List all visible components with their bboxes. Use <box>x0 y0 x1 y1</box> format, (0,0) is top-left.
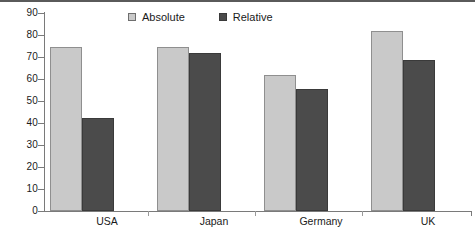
legend-swatch-absolute-icon <box>128 13 136 21</box>
x-axis-line <box>44 211 472 212</box>
x-axis-label-uk: UK <box>365 215 475 227</box>
y-axis-label-0: 0 <box>4 206 38 216</box>
y-axis-label-50: 50 <box>4 96 38 106</box>
bar-chart: Absolute Relative 90 80 70 60 50 40 30 2… <box>0 0 475 230</box>
y-axis-label-10: 10 <box>4 184 38 194</box>
y-axis-label-30: 30 <box>4 140 38 150</box>
bar-germany-relative <box>296 89 328 211</box>
plot-area: Absolute Relative 90 80 70 60 50 40 30 2… <box>0 0 475 230</box>
y-tick-70 <box>38 57 44 58</box>
y-tick-10 <box>38 189 44 190</box>
y-tick-40 <box>38 123 44 124</box>
y-tick-90 <box>38 13 44 14</box>
y-axis-label-60: 60 <box>4 74 38 84</box>
bar-japan-relative <box>189 53 221 211</box>
y-tick-0 <box>38 211 44 212</box>
bar-usa-relative <box>82 118 114 211</box>
bar-germany-absolute <box>264 75 296 211</box>
y-axis-label-70: 70 <box>4 52 38 62</box>
y-axis-label-40: 40 <box>4 118 38 128</box>
bar-usa-absolute <box>50 47 82 211</box>
y-tick-30 <box>38 145 44 146</box>
legend-swatch-relative-icon <box>219 13 227 21</box>
y-tick-20 <box>38 167 44 168</box>
legend-item-relative: Relative <box>219 11 273 23</box>
legend-label-absolute: Absolute <box>142 11 185 23</box>
y-tick-60 <box>38 79 44 80</box>
y-axis-label-80: 80 <box>4 30 38 40</box>
bar-uk-absolute <box>371 31 403 211</box>
bar-uk-relative <box>403 60 435 211</box>
bar-japan-absolute <box>157 47 189 211</box>
legend-label-relative: Relative <box>233 11 273 23</box>
y-axis-line <box>44 12 45 212</box>
y-tick-50 <box>38 101 44 102</box>
y-tick-80 <box>38 35 44 36</box>
legend-item-absolute: Absolute <box>128 11 185 23</box>
y-axis-label-90: 90 <box>4 8 38 18</box>
y-axis-label-20: 20 <box>4 162 38 172</box>
chart-legend: Absolute Relative <box>128 11 273 23</box>
